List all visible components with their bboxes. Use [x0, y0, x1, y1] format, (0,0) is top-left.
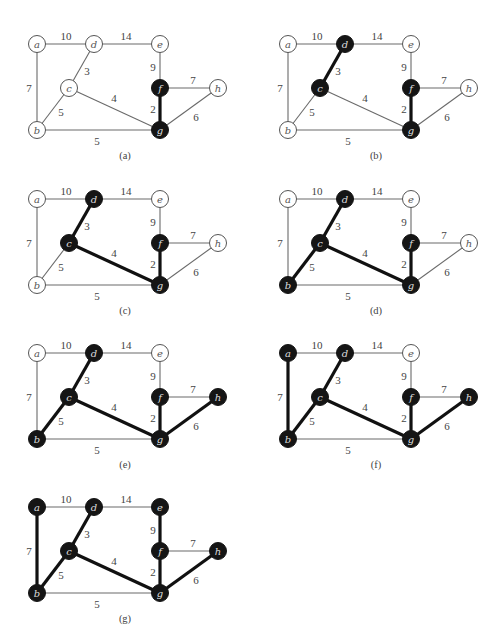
- node-label-a: a: [285, 194, 291, 205]
- edge-weight-f-g: 2: [150, 258, 156, 270]
- node-label-c: c: [66, 392, 72, 403]
- edge-weight-d-e: 14: [372, 30, 384, 42]
- edge-weight-a-b: 7: [26, 237, 32, 249]
- edge-weight-e-f: 9: [401, 61, 407, 73]
- node-label-a: a: [34, 39, 40, 50]
- edge-weight-a-d: 10: [61, 493, 73, 505]
- edge-weight-a-d: 10: [61, 185, 73, 197]
- node-label-e: e: [408, 194, 414, 205]
- edge-weight-h-g: 6: [444, 111, 450, 123]
- edge-weight-a-d: 10: [312, 339, 324, 351]
- edge-weight-e-f: 9: [401, 370, 407, 382]
- edge-weight-d-e: 14: [121, 493, 133, 505]
- edge-weight-h-g: 6: [193, 420, 199, 432]
- edge-weight-f-g: 2: [401, 258, 407, 270]
- edge-weight-b-g: 5: [94, 135, 100, 147]
- edge-weight-f-g: 2: [150, 412, 156, 424]
- edge-weight-h-g: 6: [444, 266, 450, 278]
- edge-weight-f-g: 2: [150, 566, 156, 578]
- node-label-h: h: [215, 392, 221, 403]
- node-label-d: d: [91, 194, 97, 205]
- node-label-g: g: [157, 588, 163, 599]
- panel-caption: (g): [119, 613, 132, 625]
- node-label-c: c: [317, 238, 323, 249]
- edge-weight-f-h: 7: [441, 74, 447, 86]
- edge-weight-d-c: 3: [84, 65, 90, 77]
- edge-h-g: [411, 243, 469, 285]
- edge-h-g: [411, 88, 469, 130]
- edge-weight-b-g: 5: [345, 444, 351, 456]
- graph-panel-a: 1014735497265adecfhbg(a): [26, 30, 226, 162]
- edge-weight-b-g: 5: [94, 290, 100, 302]
- edge-weight-d-e: 14: [372, 339, 384, 351]
- node-label-a: a: [34, 348, 40, 359]
- edge-weight-c-b: 5: [58, 569, 64, 581]
- edge-weight-d-c: 3: [335, 65, 341, 77]
- graph-panel-e: 1014735497265adecfhbg(e): [26, 339, 226, 471]
- edge-weight-d-c: 3: [84, 374, 90, 386]
- edge-weight-f-g: 2: [401, 103, 407, 115]
- edge-weight-d-c: 3: [84, 220, 90, 232]
- graph-panel-f: 1014735497265adecfhbg(f): [277, 339, 477, 471]
- node-label-g: g: [408, 434, 414, 445]
- edge-weight-d-c: 3: [84, 528, 90, 540]
- edge-weight-e-f: 9: [150, 61, 156, 73]
- edge-weight-d-e: 14: [121, 30, 133, 42]
- node-label-a: a: [34, 502, 40, 513]
- edge-weight-c-b: 5: [58, 261, 64, 273]
- node-label-h: h: [466, 392, 472, 403]
- edge-weight-a-b: 7: [277, 391, 283, 403]
- edge-weight-a-b: 7: [26, 82, 32, 94]
- panel-caption: (b): [370, 150, 383, 162]
- node-label-e: e: [408, 348, 414, 359]
- node-label-b: b: [34, 588, 40, 599]
- edge-weight-c-g: 4: [362, 401, 368, 413]
- edge-weight-h-g: 6: [193, 574, 199, 586]
- edge-weight-d-e: 14: [372, 185, 384, 197]
- graph-panel-b: 1014735497265adecfhbg(b): [277, 30, 477, 162]
- edge-weight-c-g: 4: [362, 92, 368, 104]
- edge-weight-c-b: 5: [309, 261, 315, 273]
- edge-weight-c-b: 5: [309, 415, 315, 427]
- graph-figure: 1014735497265adecfhbg(a)1014735497265ade…: [0, 0, 502, 643]
- node-label-d: d: [91, 39, 97, 50]
- node-label-d: d: [91, 502, 97, 513]
- node-label-e: e: [157, 39, 163, 50]
- panel-caption: (d): [370, 305, 383, 317]
- edge-h-g: [160, 243, 218, 285]
- panel-caption: (f): [371, 459, 382, 471]
- edge-weight-f-g: 2: [401, 412, 407, 424]
- edge-weight-d-c: 3: [335, 374, 341, 386]
- node-label-h: h: [466, 238, 472, 249]
- edge-weight-d-c: 3: [335, 220, 341, 232]
- node-label-g: g: [157, 434, 163, 445]
- edge-weight-h-g: 6: [193, 111, 199, 123]
- node-label-d: d: [342, 39, 348, 50]
- edge-weight-e-f: 9: [150, 216, 156, 228]
- node-label-a: a: [34, 194, 40, 205]
- edge-weight-a-d: 10: [312, 185, 324, 197]
- edge-weight-f-h: 7: [190, 229, 196, 241]
- node-label-h: h: [215, 238, 221, 249]
- node-label-b: b: [285, 434, 291, 445]
- edge-weight-a-b: 7: [26, 545, 32, 557]
- edge-weight-a-d: 10: [312, 30, 324, 42]
- edge-weight-e-f: 9: [150, 524, 156, 536]
- edge-h-g: [160, 88, 218, 130]
- graph-panel-d: 1014735497265adecfhbg(d): [277, 185, 477, 317]
- node-label-c: c: [317, 83, 323, 94]
- edge-weight-f-h: 7: [190, 74, 196, 86]
- node-label-h: h: [215, 83, 221, 94]
- edge-weight-a-d: 10: [61, 30, 73, 42]
- node-label-h: h: [466, 83, 472, 94]
- edge-weight-b-g: 5: [345, 290, 351, 302]
- graph-panel-c: 1014735497265adecfhbg(c): [26, 185, 226, 317]
- node-label-d: d: [342, 348, 348, 359]
- node-label-b: b: [34, 125, 40, 136]
- node-label-e: e: [157, 348, 163, 359]
- node-label-a: a: [285, 39, 291, 50]
- node-label-c: c: [317, 392, 323, 403]
- edge-weight-h-g: 6: [444, 420, 450, 432]
- node-label-b: b: [285, 280, 291, 291]
- edge-weight-a-b: 7: [277, 237, 283, 249]
